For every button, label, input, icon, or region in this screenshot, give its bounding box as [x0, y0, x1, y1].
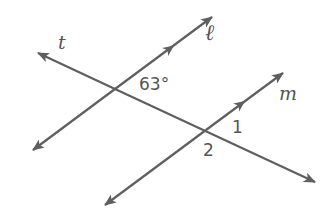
diagram-lines [0, 0, 326, 222]
label-angle-2: 2 [203, 142, 214, 159]
label-line-l: ℓ [205, 22, 214, 44]
label-line-t: t [58, 33, 66, 52]
label-line-m: m [279, 84, 297, 103]
line-m [105, 73, 283, 205]
label-angle-63: 63° [139, 76, 169, 93]
line-t [38, 53, 315, 182]
geometry-diagram: t ℓ m 63° 1 2 [0, 0, 326, 222]
label-angle-1: 1 [232, 119, 243, 136]
